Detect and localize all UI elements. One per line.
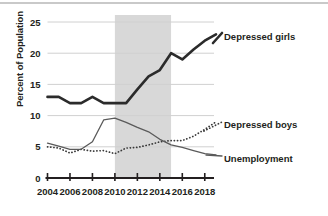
- svg-text:2018: 2018: [194, 186, 215, 197]
- svg-text:2006: 2006: [59, 186, 80, 197]
- svg-text:10: 10: [30, 110, 41, 121]
- series-label-depressed-girls: Depressed girls: [224, 31, 295, 42]
- chart-figure: Percent of Population 0510152025 2004200…: [0, 0, 328, 216]
- svg-text:2014: 2014: [149, 186, 171, 197]
- svg-text:5: 5: [35, 141, 41, 152]
- series-label-unemployment: Unemployment: [224, 153, 293, 164]
- svg-text:2012: 2012: [127, 186, 148, 197]
- svg-text:25: 25: [30, 17, 41, 28]
- plot-area: 0510152025 20042006200820102012201420162…: [0, 0, 328, 216]
- series-label-depressed-boys: Depressed boys: [224, 119, 297, 130]
- svg-text:2010: 2010: [104, 186, 125, 197]
- y-axis-tick-labels: 0510152025: [30, 17, 41, 184]
- svg-text:0: 0: [35, 173, 40, 184]
- x-axis-tick-labels: 20042006200820102012201420162018: [37, 186, 215, 197]
- svg-text:20: 20: [30, 48, 41, 59]
- svg-text:2016: 2016: [172, 186, 193, 197]
- series-inline-labels: Depressed girlsDepressed boysUnemploymen…: [204, 31, 297, 164]
- svg-text:15: 15: [30, 79, 41, 90]
- svg-text:2004: 2004: [37, 186, 59, 197]
- shaded-recession-band: [115, 15, 171, 177]
- svg-text:2008: 2008: [82, 186, 103, 197]
